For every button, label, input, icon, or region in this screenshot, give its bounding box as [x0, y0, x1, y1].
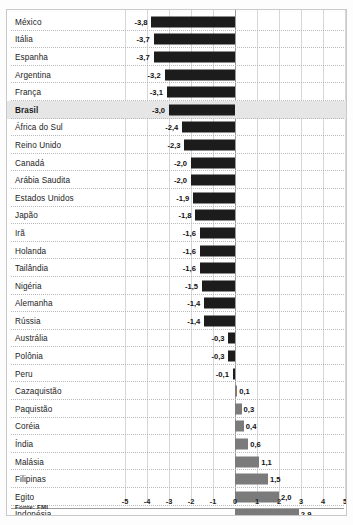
- category-label: Irã: [15, 228, 25, 237]
- row-plot-area: -3,7: [125, 31, 346, 49]
- category-label: Paquistão: [15, 404, 52, 413]
- row-plot-area: 0,1: [125, 382, 346, 400]
- category-label: Filipinas: [15, 475, 46, 484]
- x-tick-label: 3: [299, 497, 303, 506]
- category-label: Estados Unidos: [15, 193, 74, 202]
- bar-value-label: -3,7: [137, 35, 150, 44]
- bar-positive: [235, 439, 248, 450]
- bar-value-label: 0,1: [239, 387, 250, 396]
- x-tick-label: -2: [188, 497, 195, 506]
- row-plot-area: -3,2: [125, 66, 346, 84]
- bar-negative: [191, 157, 235, 168]
- bar-negative: [191, 175, 235, 186]
- bar-row: Argentina-3,2: [7, 66, 346, 84]
- bar-value-label: 1,1: [261, 457, 272, 466]
- bar-row: Espanha-3,7: [7, 48, 346, 66]
- x-tick-label: 2: [277, 497, 281, 506]
- row-plot-area: -1,4: [125, 312, 346, 330]
- bar-negative: [204, 298, 235, 309]
- row-plot-area: -1,6: [125, 224, 346, 242]
- category-label: Nigéria: [15, 281, 42, 290]
- row-plot-area: -1,9: [125, 189, 346, 207]
- bar-negative: [200, 227, 235, 238]
- bar-row: Índia0,6: [7, 435, 346, 453]
- bar-row: Cazaquistão0,1: [7, 382, 346, 400]
- row-plot-area: -3,7: [125, 48, 346, 66]
- bar-negative: [204, 315, 235, 326]
- row-plot-area: 1,5: [125, 470, 346, 488]
- row-plot-area: -0,1: [125, 365, 346, 383]
- chart-container: México-3,8Itália-3,7Espanha-3,7Argentina…: [0, 0, 353, 525]
- bar-positive: [235, 386, 237, 397]
- row-plot-area: -3,0: [125, 101, 346, 119]
- bar-negative: [193, 192, 235, 203]
- bar-value-label: -1,6: [183, 246, 196, 255]
- category-label: Índia: [15, 440, 33, 449]
- category-label: Rússia: [15, 316, 41, 325]
- category-label: Polônia: [15, 352, 43, 361]
- bar-value-label: -1,8: [178, 211, 191, 220]
- bar-row: México-3,8: [7, 13, 346, 31]
- category-label: Arábia Saudita: [15, 176, 70, 185]
- category-label: Canadá: [15, 158, 44, 167]
- bar-value-label: -2,3: [167, 140, 180, 149]
- x-tick-label: -5: [122, 497, 129, 506]
- x-axis: -5-4-3-2-1012345: [7, 497, 346, 516]
- category-label: Peru: [15, 369, 33, 378]
- bar-negative: [184, 139, 235, 150]
- chart-frame: México-3,8Itália-3,7Espanha-3,7Argentina…: [6, 9, 347, 516]
- row-plot-area: -2,0: [125, 171, 346, 189]
- category-label: Cazaquistão: [15, 387, 62, 396]
- bar-negative: [200, 263, 235, 274]
- bar-row: África do Sul-2,4: [7, 119, 346, 137]
- x-tick-label: 0: [233, 497, 237, 506]
- row-plot-area: -0,3: [125, 330, 346, 348]
- bar-value-label: -1,5: [185, 281, 198, 290]
- bar-value-label: 0,6: [250, 440, 261, 449]
- row-plot-area: -2,0: [125, 154, 346, 172]
- bar-row: Polônia-0,3: [7, 347, 346, 365]
- bar-row: Tailândia-1,6: [7, 259, 346, 277]
- bar-negative: [200, 245, 235, 256]
- bar-row: Holanda-1,6: [7, 242, 346, 260]
- row-plot-area: -1,6: [125, 259, 346, 277]
- row-plot-area: 1,1: [125, 453, 346, 471]
- row-plot-area: 0,6: [125, 435, 346, 453]
- bar-positive: [235, 421, 244, 432]
- bar-row: Malásia1,1: [7, 453, 346, 471]
- bar-row: Austrália-0,3: [7, 330, 346, 348]
- bar-row: Rússia-1,4: [7, 312, 346, 330]
- bar-row: Alemanha-1,4: [7, 295, 346, 313]
- bar-row: Paquistão0,3: [7, 400, 346, 418]
- bar-row: Arábia Saudita-2,0: [7, 171, 346, 189]
- bar-negative: [228, 333, 235, 344]
- bar-value-label: -1,6: [183, 264, 196, 273]
- row-plot-area: -3,8: [125, 13, 346, 31]
- row-plot-area: -0,3: [125, 347, 346, 365]
- bar-negative: [202, 280, 235, 291]
- bar-value-label: 0,4: [246, 422, 257, 431]
- bar-negative: [165, 69, 235, 80]
- category-label: Japão: [15, 211, 38, 220]
- bar-value-label: -3,7: [137, 52, 150, 61]
- bar-negative: [151, 16, 235, 27]
- category-label: Coréia: [15, 422, 40, 431]
- bar-negative: [169, 104, 235, 115]
- category-label: Brasil: [15, 105, 38, 114]
- bar-row: Filipinas1,5: [7, 470, 346, 488]
- bar-value-label: -1,9: [176, 193, 189, 202]
- row-plot-area: -3,1: [125, 83, 346, 101]
- bar-row: Itália-3,7: [7, 31, 346, 49]
- x-tick-label: -1: [210, 497, 217, 506]
- bar-negative: [167, 87, 235, 98]
- bar-negative: [195, 210, 235, 221]
- bar-value-label: -3,8: [134, 17, 147, 26]
- category-label: França: [15, 88, 41, 97]
- x-tick-label: 1: [255, 497, 259, 506]
- row-plot-area: -1,8: [125, 207, 346, 225]
- bar-value-label: -3,1: [150, 88, 163, 97]
- bar-row: Coréia0,4: [7, 418, 346, 436]
- bar-value-label: -0,3: [211, 352, 224, 361]
- bar-negative: [154, 34, 235, 45]
- bar-negative: [228, 351, 235, 362]
